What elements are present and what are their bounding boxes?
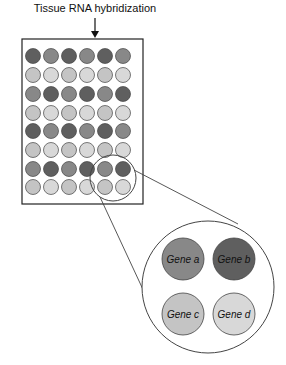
spot	[116, 49, 131, 64]
gene-label: Gene b	[218, 254, 251, 265]
spot	[116, 162, 131, 177]
spot	[26, 106, 41, 121]
zoom-line-upper	[134, 170, 238, 224]
spot	[26, 49, 41, 64]
spot	[26, 87, 41, 102]
magnified-circle	[142, 221, 274, 353]
spot	[26, 143, 41, 158]
spot	[80, 49, 95, 64]
spot	[80, 106, 95, 121]
spot	[98, 87, 113, 102]
spot	[98, 106, 113, 121]
spot	[44, 106, 59, 121]
spot	[62, 87, 77, 102]
spot	[98, 68, 113, 83]
spot	[62, 162, 77, 177]
spot	[116, 106, 131, 121]
spot	[98, 162, 113, 177]
spot	[62, 124, 77, 139]
spot	[44, 162, 59, 177]
spot	[62, 106, 77, 121]
spot	[62, 68, 77, 83]
spot	[116, 87, 131, 102]
spot	[44, 180, 59, 195]
spot	[62, 49, 77, 64]
arrow-head-icon	[91, 31, 99, 38]
spot	[98, 49, 113, 64]
spot	[116, 124, 131, 139]
spot	[98, 124, 113, 139]
spot	[26, 68, 41, 83]
gene-label: Gene a	[167, 254, 200, 265]
zoom-line-lower	[100, 197, 146, 296]
spot	[116, 180, 131, 195]
spot	[44, 49, 59, 64]
gene-label: Gene d	[218, 309, 251, 320]
spot	[44, 124, 59, 139]
spot	[26, 180, 41, 195]
spot	[116, 68, 131, 83]
spot	[62, 143, 77, 158]
spot	[26, 124, 41, 139]
spot	[80, 68, 95, 83]
spot	[80, 143, 95, 158]
spot	[62, 180, 77, 195]
microarray-diagram: Gene aGene bGene cGene d	[0, 0, 286, 365]
spot	[80, 87, 95, 102]
spot	[98, 180, 113, 195]
gene-label: Gene c	[167, 309, 199, 320]
spot	[26, 162, 41, 177]
spot	[44, 68, 59, 83]
spot	[80, 124, 95, 139]
spot	[44, 87, 59, 102]
microarray-chip	[22, 39, 143, 204]
spot	[44, 143, 59, 158]
